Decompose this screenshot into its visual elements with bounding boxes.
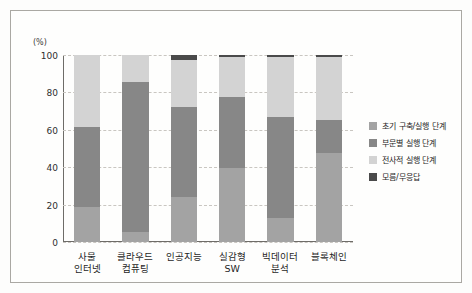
y-axis-tick-label: 40 bbox=[47, 163, 63, 173]
bar-group[interactable]: 블록체인 bbox=[316, 55, 342, 242]
bar-segment[interactable] bbox=[74, 207, 100, 242]
y-axis-tick-label: 20 bbox=[47, 201, 63, 211]
x-axis-tick-label: 블록체인 bbox=[294, 251, 364, 263]
y-axis-tick-label: 60 bbox=[47, 126, 63, 136]
legend-swatch-icon bbox=[369, 156, 377, 164]
stacked-bar[interactable] bbox=[74, 55, 100, 242]
legend-swatch-icon bbox=[369, 122, 377, 130]
gridline: 0 bbox=[63, 242, 353, 243]
legend-swatch-icon bbox=[369, 139, 377, 147]
stacked-bar[interactable] bbox=[171, 55, 197, 242]
bar-segment[interactable] bbox=[316, 153, 342, 242]
bar-segment[interactable] bbox=[122, 232, 148, 242]
legend-item-label: 초기 구축/실행 단계 bbox=[382, 122, 446, 131]
bar-segment[interactable] bbox=[267, 57, 293, 117]
stacked-bar[interactable] bbox=[267, 55, 293, 242]
plot-area: 020406080100 사물 인터넷클라우드 컴퓨팅인공지능실감형 SW빅데이… bbox=[63, 55, 353, 242]
bar-group[interactable]: 실감형 SW bbox=[219, 55, 245, 242]
bar-segment[interactable] bbox=[171, 107, 197, 197]
bar-segment[interactable] bbox=[316, 120, 342, 154]
bar-segment[interactable] bbox=[267, 117, 293, 219]
bar-group[interactable]: 인공지능 bbox=[171, 55, 197, 242]
bar-segment[interactable] bbox=[74, 55, 100, 127]
y-axis-tick-label: 80 bbox=[47, 88, 63, 98]
legend-item-label: 전사적 실행 단계 bbox=[382, 156, 436, 165]
bar-series-container: 사물 인터넷클라우드 컴퓨팅인공지능실감형 SW빅데이터 분석블록체인 bbox=[63, 55, 353, 242]
legend-item-label: 부문별 실행 단계 bbox=[382, 139, 436, 148]
legend-item[interactable]: 초기 구축/실행 단계 bbox=[369, 119, 472, 133]
bar-group[interactable]: 사물 인터넷 bbox=[74, 55, 100, 242]
bar-segment[interactable] bbox=[219, 168, 245, 242]
chart-figure: (%) 020406080100 사물 인터넷클라우드 컴퓨팅인공지능실감형 S… bbox=[0, 0, 472, 293]
bar-segment[interactable] bbox=[171, 197, 197, 242]
bar-segment[interactable] bbox=[267, 218, 293, 242]
bar-segment[interactable] bbox=[219, 57, 245, 97]
bar-group[interactable]: 빅데이터 분석 bbox=[267, 55, 293, 242]
bar-segment[interactable] bbox=[219, 97, 245, 168]
legend-item[interactable]: 모름/무응답 bbox=[369, 170, 472, 184]
bar-group[interactable]: 클라우드 컴퓨팅 bbox=[122, 55, 148, 242]
bar-segment[interactable] bbox=[171, 60, 197, 108]
chart-frame: (%) 020406080100 사물 인터넷클라우드 컴퓨팅인공지능실감형 S… bbox=[10, 10, 462, 283]
bar-segment[interactable] bbox=[74, 127, 100, 208]
y-axis-unit-label: (%) bbox=[33, 38, 47, 47]
y-axis-tick-label: 0 bbox=[52, 238, 63, 248]
chart-legend: 초기 구축/실행 단계부문별 실행 단계전사적 실행 단계모름/무응답 bbox=[369, 119, 472, 187]
stacked-bar[interactable] bbox=[122, 55, 148, 242]
bar-segment[interactable] bbox=[316, 57, 342, 120]
stacked-bar[interactable] bbox=[219, 55, 245, 242]
y-axis-tick-label: 100 bbox=[41, 51, 63, 61]
legend-swatch-icon bbox=[369, 173, 377, 181]
legend-item[interactable]: 부문별 실행 단계 bbox=[369, 136, 472, 150]
legend-item[interactable]: 전사적 실행 단계 bbox=[369, 153, 472, 167]
stacked-bar[interactable] bbox=[316, 55, 342, 242]
bar-segment[interactable] bbox=[122, 82, 148, 232]
legend-item-label: 모름/무응답 bbox=[382, 173, 420, 182]
bar-segment[interactable] bbox=[122, 55, 148, 82]
